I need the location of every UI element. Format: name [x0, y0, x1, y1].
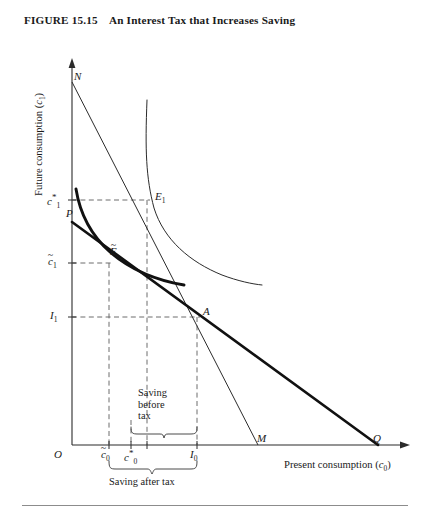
y-tick-label-c1-tilde: ~c1: [48, 255, 57, 270]
annotation-saving-after-tax: Saving after tax: [109, 476, 175, 488]
brace-saving-before-tax: [131, 427, 197, 438]
label-E-tilde: ~E: [110, 245, 117, 257]
plot-svg: [0, 0, 430, 526]
label-N: N: [74, 70, 81, 82]
label-Q: Q: [373, 432, 381, 444]
y-axis-title: Future consumption (c1): [33, 93, 47, 196]
bottom-divider: [22, 505, 408, 506]
budget-line-PQ: [72, 222, 378, 445]
label-A: A: [203, 305, 210, 317]
x-axis: [72, 442, 410, 449]
label-P: P: [66, 207, 73, 219]
y-axis: [69, 58, 76, 445]
label-E1: E1: [155, 190, 166, 205]
figure-container: FIGURE 15.15An Interest Tax that Increas…: [0, 0, 430, 526]
origin-label: O: [54, 448, 62, 460]
x-tick-label-c0-tilde: ~c0: [101, 448, 110, 463]
x-axis-title: Present consumption (c0): [284, 459, 391, 473]
x-tick-label-I0: I0: [190, 448, 197, 463]
brace-saving-after-tax: [109, 461, 197, 474]
axis-ticks: [68, 200, 197, 449]
y-tick-label-I1: I1: [50, 309, 57, 324]
x-tick-label-c0-star: c*0: [124, 448, 137, 466]
y-axis-arrowhead: [69, 58, 76, 68]
x-axis-arrowhead: [400, 442, 410, 449]
annotation-saving-before-tax: Saving before tax: [138, 387, 167, 422]
label-M: M: [257, 432, 266, 444]
y-tick-label-c1-star: c*1: [47, 192, 60, 210]
